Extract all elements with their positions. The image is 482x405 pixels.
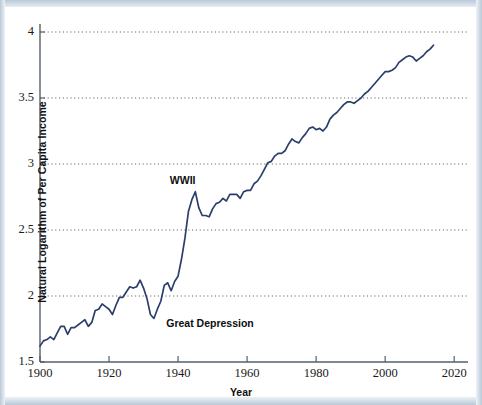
x-tick-label: 1940 (150, 366, 206, 381)
chart-annotation: Great Depression (166, 317, 254, 329)
line-chart-plot (0, 0, 482, 405)
x-axis-ticks (40, 356, 454, 362)
income-series-line (40, 45, 433, 346)
chart-annotation: WWII (170, 174, 196, 186)
x-tick-label: 2000 (357, 366, 413, 381)
x-tick-label: 2020 (426, 366, 482, 381)
x-tick-label: 1920 (81, 366, 137, 381)
y-tick-label: 2.5 (0, 222, 34, 237)
gridlines (40, 32, 468, 296)
y-axis-title: Natural Logarithm of Per Capita Income (36, 72, 48, 332)
x-tick-label: 1980 (288, 366, 344, 381)
y-tick-label: 4 (0, 24, 34, 39)
y-tick-label: 3.5 (0, 90, 34, 105)
y-tick-label: 3 (0, 156, 34, 171)
y-tick-label: 2 (0, 288, 34, 303)
x-tick-label: 1900 (12, 366, 68, 381)
figure-container: 1.522.533.54 190019201940196019802000202… (0, 0, 482, 405)
x-axis-title: Year (0, 386, 482, 398)
x-tick-label: 1960 (219, 366, 275, 381)
axis-lines (40, 24, 468, 362)
